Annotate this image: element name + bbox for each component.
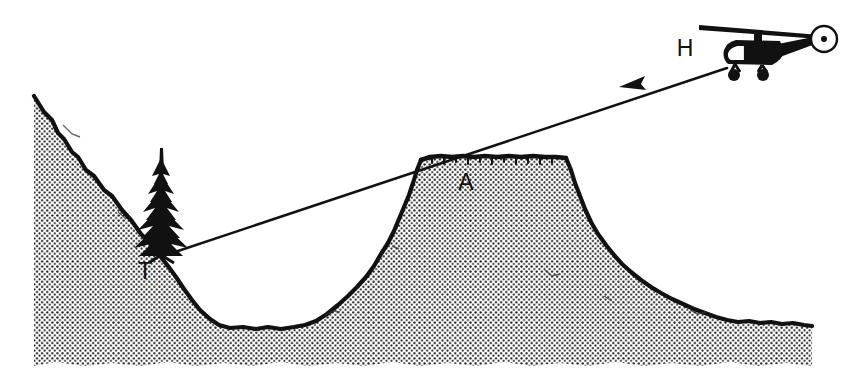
helicopter: [699, 25, 837, 81]
helicopter-wheel-rear: [757, 69, 769, 81]
helicopter-tail-rotor-hub: [821, 36, 827, 42]
figure-canvas: H A T: [0, 0, 867, 388]
line-of-sight-arrowhead: [619, 76, 646, 90]
tree-label: T: [138, 258, 152, 284]
conifer-tree: [134, 148, 188, 263]
helicopter-label: H: [677, 35, 694, 61]
helicopter-wheel-front: [728, 69, 740, 81]
scene-svg: H A T: [0, 0, 867, 388]
ridge-label: A: [458, 169, 474, 195]
helicopter-canopy: [727, 45, 745, 61]
